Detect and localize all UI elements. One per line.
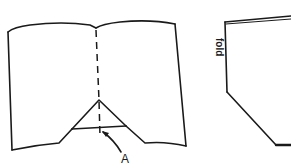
left-page-top-edge — [8, 23, 96, 32]
diagram-canvas: A fold — [0, 0, 291, 166]
fold-edge — [225, 22, 227, 92]
right-page-outer-edge — [175, 24, 186, 146]
right-folded-figure: fold — [214, 16, 291, 145]
fold-label: fold — [214, 38, 225, 56]
right-page-top-edge — [96, 21, 175, 28]
left-page-bottom-edge — [12, 129, 72, 150]
label-a: A — [121, 152, 129, 166]
left-page-outer-edge — [8, 32, 12, 150]
spine-dashed-line — [96, 30, 100, 136]
left-book-figure: A — [8, 21, 186, 166]
right-page-bottom-edge — [126, 126, 186, 146]
cut-diagonal-edge — [227, 92, 276, 145]
